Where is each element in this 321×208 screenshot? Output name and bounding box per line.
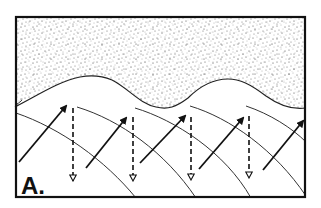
- solid-arrow: [19, 106, 66, 162]
- solid-arrow: [263, 121, 303, 170]
- stippled-medium-region: [15, 16, 306, 109]
- dashed-vertical-arrows: [73, 108, 249, 181]
- panel-label: A.: [21, 174, 45, 198]
- wavefront-line: [190, 106, 306, 196]
- solid-arrow: [140, 116, 185, 163]
- wavefront-line: [77, 107, 196, 198]
- incident-ray-arrows: [19, 106, 303, 170]
- wavefront-line: [135, 108, 251, 198]
- solid-arrow: [199, 118, 243, 169]
- wavefront-line: [246, 106, 306, 142]
- solid-arrow: [86, 118, 126, 168]
- wave-diagram: [0, 0, 321, 208]
